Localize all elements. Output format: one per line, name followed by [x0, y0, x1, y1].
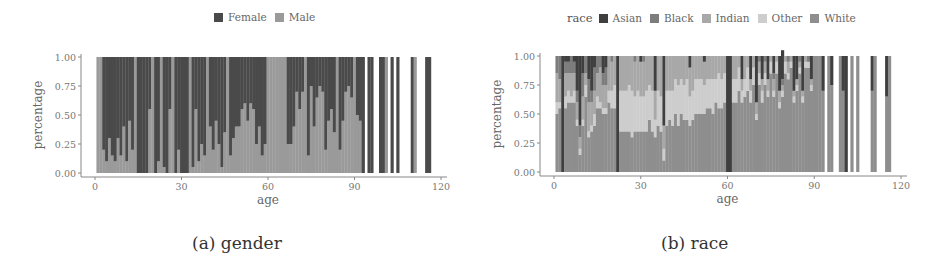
bar-segment [128, 121, 131, 173]
bar-segment [197, 57, 200, 161]
bar-segment [688, 56, 691, 68]
bar-segment [602, 108, 605, 114]
bar-segment [732, 79, 735, 102]
x-tick-label: 90 [348, 181, 360, 192]
bar-segment [313, 127, 316, 173]
bar-segment [613, 85, 616, 108]
bar-segment [301, 92, 304, 173]
bar-segment [738, 56, 741, 68]
bar-segment [697, 114, 700, 172]
bar-segment [810, 85, 813, 91]
bar-segment [579, 56, 582, 126]
bar-segment [177, 57, 180, 150]
bar-segment [622, 91, 625, 132]
bar-segment [871, 56, 874, 91]
bar-segment [795, 79, 798, 85]
bar-segment [573, 91, 576, 103]
bar-segment [622, 56, 625, 91]
y-tick-label: 0.50 [514, 109, 535, 120]
bar-segment [186, 57, 189, 173]
bar-segment [599, 56, 602, 68]
bar-segment [605, 56, 608, 68]
bar-segment [625, 131, 628, 172]
y-tick-label: 0.50 [55, 110, 76, 121]
bar-segment [200, 144, 203, 173]
bar-segment [105, 161, 108, 173]
bar-segment [610, 62, 613, 91]
bar-segment [752, 85, 755, 172]
bar-segment [215, 57, 218, 121]
bar-segment [775, 62, 778, 74]
bar-segment [157, 161, 160, 173]
bar-segment [735, 102, 738, 172]
bar-segment [573, 62, 576, 74]
bar-segment [359, 57, 362, 121]
bar-segment [261, 57, 264, 156]
bar-segment [688, 97, 691, 126]
bar-segment [790, 62, 793, 68]
bar-segment [752, 68, 755, 85]
bar-segment [636, 91, 639, 132]
bar-segment [755, 102, 758, 114]
bar-segment [131, 150, 134, 173]
bar-segment [717, 56, 720, 73]
bar-segment [215, 121, 218, 173]
bar-segment [700, 79, 703, 114]
bar-segment [850, 56, 853, 172]
y-tick-label: 0.75 [514, 80, 535, 91]
bar-segment [344, 92, 347, 173]
bar-segment [784, 73, 787, 172]
bar-segment [775, 73, 778, 172]
bar-segment [367, 57, 370, 173]
bar-segment [428, 57, 431, 173]
bar-segment [353, 57, 356, 173]
bar-segment [261, 156, 264, 173]
bar-segment [648, 85, 651, 120]
bar-segment [194, 57, 197, 109]
bar-segment [769, 73, 772, 172]
bar-segment [576, 91, 579, 103]
bar-segment [567, 102, 570, 172]
bar-segment [134, 57, 137, 173]
bar-segment [310, 86, 313, 173]
bar-segment [674, 56, 677, 79]
bar-segment [619, 91, 622, 132]
bar-segment [125, 57, 128, 161]
bar-segment [590, 131, 593, 172]
bar-segment [558, 56, 561, 79]
bar-segment [741, 91, 744, 103]
bar-segment [671, 91, 674, 126]
bar-segment [272, 57, 275, 173]
y-tick-label: 0.00 [514, 167, 535, 178]
bar-segment [639, 97, 642, 132]
bar-segment [810, 79, 813, 85]
bar-segment [619, 56, 622, 91]
bar-segment [657, 126, 660, 172]
bar-segment [657, 56, 660, 91]
bar-segment [220, 57, 223, 167]
bar-segment [807, 68, 810, 172]
bar-segment [599, 68, 602, 103]
bar-segment [717, 108, 720, 172]
bar-segment [125, 161, 128, 173]
bar-segment [793, 97, 796, 103]
bar-segment [379, 57, 382, 173]
bar-segment [680, 56, 683, 79]
bar-segment [102, 150, 105, 173]
x-axis-title: age [717, 192, 739, 206]
bar-segment [180, 57, 183, 173]
bar-segment [605, 114, 608, 172]
bar-segment [163, 57, 166, 167]
bar-segment [772, 79, 775, 91]
bar-segment [339, 57, 342, 150]
bar-segment [255, 144, 258, 173]
bar-segment [821, 91, 824, 172]
bar-segment [767, 97, 770, 172]
bar-segment [634, 62, 637, 97]
bar-segment [602, 56, 605, 73]
bar-segment [269, 57, 272, 173]
bar-segment [694, 114, 697, 172]
bar-segment [596, 56, 599, 73]
bar-segment [697, 79, 700, 114]
bar-segment [645, 56, 648, 91]
